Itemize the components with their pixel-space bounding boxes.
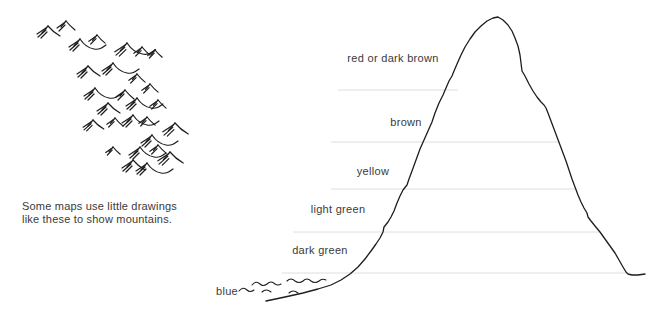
mountain-symbol-icon (158, 152, 183, 165)
mountain-symbol-icon (122, 115, 159, 127)
elevation-label-brown: brown (390, 117, 421, 128)
mountain-symbol-icon (77, 66, 100, 78)
water-wave-squiggle (252, 282, 281, 286)
mountain-symbol-icon (136, 163, 173, 175)
mountain-symbol-icon (129, 74, 145, 83)
mountain-symbol-icon (83, 120, 104, 131)
mountain-symbol-icon (69, 39, 106, 51)
illustration-page: Some maps use little drawings like these… (0, 0, 662, 318)
mountain-profile-outline (266, 17, 645, 301)
water-wave-squiggle (262, 290, 271, 292)
mountain-symbol-icon (106, 147, 120, 155)
mountain-symbol-icon (129, 147, 166, 159)
caption-line-2: like these to show mountains. (22, 213, 172, 225)
mountain-symbol-icon (142, 84, 158, 93)
mountain-symbol-icon (141, 135, 178, 147)
mountain-symbol-icon (102, 63, 139, 75)
mountain-symbol-icon (134, 47, 150, 56)
mountain-symbol-icon (163, 123, 188, 136)
elevation-label-red-or-dark-brown: red or dark brown (347, 53, 438, 64)
mountain-symbol-icon (84, 88, 121, 100)
mountain-symbol-icon (148, 50, 162, 58)
elevation-label-dark-green: dark green (292, 245, 348, 256)
mountain-symbol-icon (116, 90, 134, 100)
elevation-label-light-green: light green (311, 204, 366, 215)
mountain-symbol-icon (150, 145, 166, 154)
mountain-symbol-icon (97, 103, 120, 115)
mountain-symbol-icon (57, 21, 75, 31)
left-figure-caption: Some maps use little drawings like these… (22, 200, 177, 226)
water-wave-squiggle (287, 279, 326, 283)
water-wave-squiggle (289, 291, 298, 293)
elevation-label-yellow: yellow (357, 166, 389, 177)
elevation-label-blue: blue (216, 286, 238, 297)
caption-line-1: Some maps use little drawings (22, 200, 177, 212)
water-wave-squiggle (239, 288, 254, 291)
map-mountains-figure-art (0, 0, 662, 318)
mountain-symbol-icon (107, 118, 123, 127)
mountain-symbol-icon (89, 35, 105, 44)
